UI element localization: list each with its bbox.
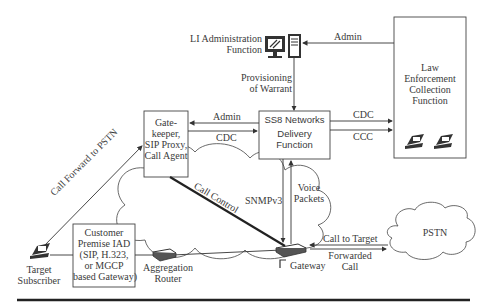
router-line2: Router [140,273,196,284]
gatekeeper-line3: SIP Proxy, [144,139,188,150]
target-line2: Subscriber [14,275,64,286]
server-tower-icon [288,34,301,58]
li-admin-label-line1: LI Administration [186,33,262,44]
desk-phone-icon [30,243,50,259]
li-admin-label-line2: Function [186,44,262,55]
monitor-icon [265,36,285,58]
delivery-line2: Delivery [259,128,330,140]
voice-line1: Voice [291,182,327,193]
iad-line4: or MGCP [73,260,135,271]
admin-mid-label: Admin [213,111,241,122]
iad-line2: Premise IAD [73,238,135,249]
provisioning-line2: of Warrant [230,83,292,94]
gatekeeper-label: Gate- keeper, SIP Proxy, Call Agent [144,117,188,161]
cdc-mid-label: CDC [216,132,237,143]
cdc-right-label: CDC [353,109,374,120]
gateway-label: Gateway [290,260,326,271]
aggregation-router-label: Aggregation Router [140,262,196,284]
gatekeeper-line4: Call Agent [144,150,188,161]
voice-line2: Packets [291,193,327,204]
gatekeeper-line1: Gate- [144,117,188,128]
lea-line3: Collection [394,84,466,95]
provisioning-line1: Provisioning [230,72,292,83]
forwarded-call-label: Forwarded Call [325,250,375,272]
voice-packets-label: Voice Packets [291,182,327,204]
li-admin-label: LI Administration Function [186,33,262,55]
delivery-function-label: SS8 Networks Delivery Function [259,114,330,151]
delivery-line3: Function [259,139,330,151]
lea-label: Law Enforcement Collection Function [394,62,466,106]
forwarded-line2: Call [325,261,375,272]
iad-label: Customer Premise IAD (SIP, H.323, or MGC… [73,227,135,282]
gatekeeper-line2: keeper, [144,128,188,139]
iad-line3: (SIP, H.323, [73,249,135,260]
lea-line1: Law [394,62,466,73]
iad-line5: based Gateway) [73,271,135,282]
router-line1: Aggregation [140,262,196,273]
forwarded-line1: Forwarded [325,250,375,261]
snmp-label: SNMPv3 [245,195,282,206]
delivery-line1: SS8 Networks [259,114,330,126]
lea-line2: Enforcement [394,73,466,84]
admin-top-label: Admin [334,31,362,42]
target-subscriber-label: Target Subscriber [14,264,64,286]
iad-line1: Customer [73,227,135,238]
ccc-right-label: CCC [353,131,373,142]
pstn-label: PSTN [410,227,460,238]
target-line1: Target [14,264,64,275]
call-to-target-label: Call to Target [323,233,377,244]
provisioning-label: Provisioning of Warrant [230,72,292,94]
lea-line4: Function [394,95,466,106]
